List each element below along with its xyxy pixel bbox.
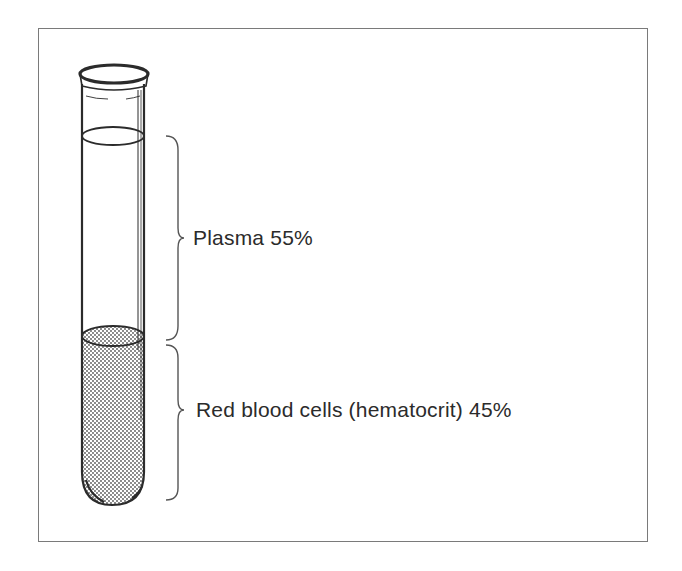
- plasma-brace: [166, 136, 184, 340]
- red-blood-cells-brace: [166, 345, 184, 500]
- plasma-label: Plasma 55%: [193, 226, 313, 250]
- test-tube-illustration: [0, 0, 682, 571]
- plasma-meniscus: [82, 127, 144, 145]
- red-blood-cells-label: Red blood cells (hematocrit) 45%: [196, 398, 512, 422]
- red-blood-cell-layer: [80, 326, 146, 508]
